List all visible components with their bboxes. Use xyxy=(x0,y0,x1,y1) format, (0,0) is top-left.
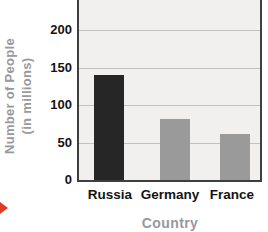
x-tick-france: France xyxy=(210,187,254,202)
x-tick-germany: Germany xyxy=(141,187,200,202)
y-axis-title-line1: Number of People xyxy=(1,16,18,176)
x-tick-russia: Russia xyxy=(88,187,132,202)
y-axis-title: Number of People (in millions) xyxy=(1,16,37,176)
y-axis-title-line2: (in millions) xyxy=(18,16,35,176)
plot-area xyxy=(77,0,262,182)
page-marker-icon xyxy=(0,202,8,214)
gridline-150 xyxy=(79,68,260,69)
population-bar-chart: 050100150200 Number of People (in millio… xyxy=(0,0,268,232)
bar-germany xyxy=(160,119,190,180)
x-axis-title: Country xyxy=(142,215,198,231)
gridline-200 xyxy=(79,30,260,31)
bar-france xyxy=(220,134,250,180)
bar-russia xyxy=(94,75,124,180)
